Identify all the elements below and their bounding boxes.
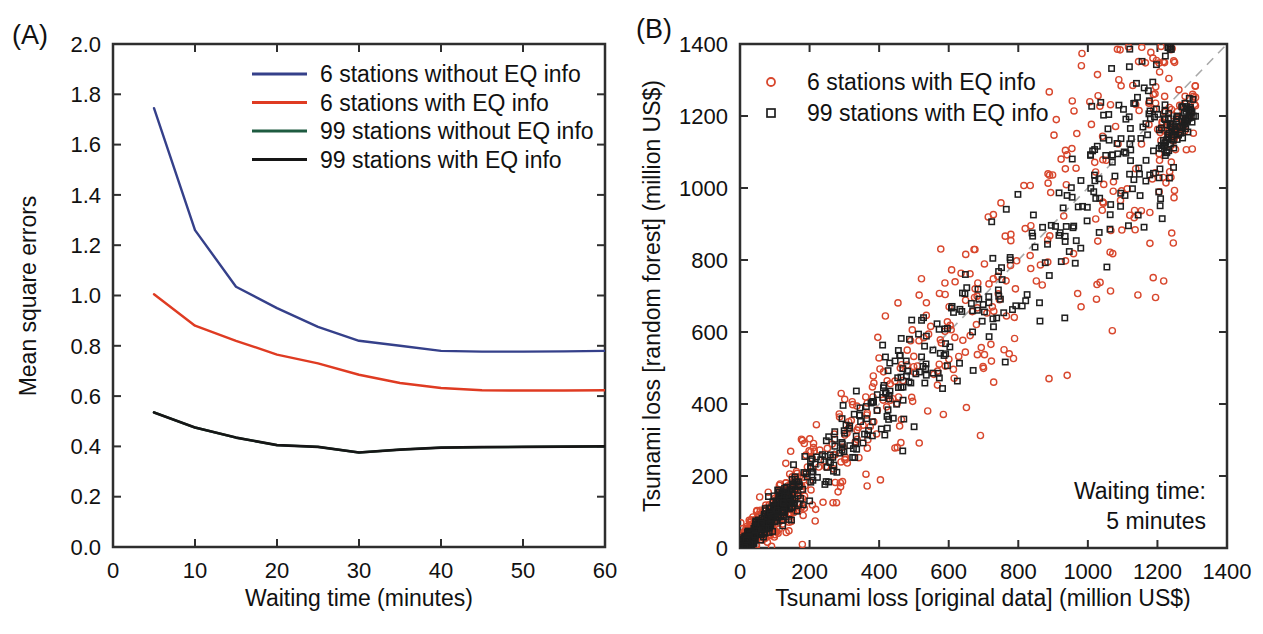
scatter-point xyxy=(1132,227,1138,233)
scatter-point xyxy=(1078,245,1083,250)
scatter-point xyxy=(969,301,974,306)
scatter-point xyxy=(1093,216,1099,222)
scatter-point xyxy=(934,321,939,326)
scatter-point xyxy=(986,334,991,339)
scatter-point xyxy=(1160,216,1165,221)
x-tick-label: 1000 xyxy=(1063,559,1112,584)
scatter-point xyxy=(1046,89,1052,95)
scatter-point xyxy=(1092,159,1098,165)
scatter-point xyxy=(977,432,983,438)
scatter-point xyxy=(1015,192,1020,197)
scatter-point xyxy=(1116,77,1122,83)
scatter-point xyxy=(1022,226,1028,232)
scatter-point xyxy=(991,379,997,385)
scatter-point xyxy=(1078,63,1084,69)
scatter-point xyxy=(882,432,887,437)
scatter-point xyxy=(973,321,979,327)
scatter-point xyxy=(949,267,955,273)
scatter-point xyxy=(799,541,805,547)
scatter-point xyxy=(904,347,910,353)
figure-tsunami-loss-forecast: (A) 01020304050600.00.20.40.60.81.01.21.… xyxy=(0,0,1263,634)
scatter-point xyxy=(869,384,875,390)
scatter-point xyxy=(1094,71,1100,77)
x-tick-label: 0 xyxy=(734,559,746,584)
scatter-point xyxy=(1074,238,1079,243)
scatter-point xyxy=(1069,98,1075,104)
scatter-point xyxy=(1062,315,1067,320)
scatter-point xyxy=(1060,205,1065,210)
scatter-point xyxy=(981,352,987,358)
scatter-point xyxy=(1127,64,1132,69)
y-tick-label: 400 xyxy=(691,392,728,417)
scatter-point xyxy=(1004,207,1009,212)
panel-b-y-axis-label: Tsunami loss [random forest] (million US… xyxy=(639,80,665,512)
scatter-point xyxy=(882,313,888,319)
scatter-point xyxy=(1053,116,1059,122)
y-tick-label: 200 xyxy=(691,464,728,489)
scatter-point xyxy=(974,352,980,358)
scatter-point xyxy=(1011,314,1017,320)
scatter-point xyxy=(956,353,962,359)
scatter-point xyxy=(871,380,877,386)
y-tick-label: 1200 xyxy=(679,104,728,129)
y-tick-label: 0.0 xyxy=(70,535,101,560)
figure-canvas: (A) 01020304050600.00.20.40.60.81.01.21.… xyxy=(0,0,1263,634)
scatter-point xyxy=(986,294,991,299)
scatter-point xyxy=(1137,193,1142,198)
scatter-point xyxy=(875,334,881,340)
scatter-point xyxy=(1169,230,1175,236)
legend-item-label: 6 stations with EQ info xyxy=(320,90,549,116)
legend-item-label: 6 stations without EQ info xyxy=(320,61,581,87)
scatter-point xyxy=(1105,126,1110,131)
scatter-point xyxy=(1107,102,1113,108)
scatter-point xyxy=(800,512,806,518)
scatter-point xyxy=(1101,181,1107,187)
scatter-point xyxy=(1112,123,1118,129)
scatter-point xyxy=(1162,93,1168,99)
y-tick-label: 1.4 xyxy=(70,183,101,208)
scatter-point xyxy=(998,200,1004,206)
scatter-point xyxy=(812,518,818,524)
scatter-point xyxy=(824,445,830,451)
scatter-point xyxy=(1143,158,1148,163)
scatter-point xyxy=(909,327,915,333)
scatter-point xyxy=(840,403,845,408)
scatter-point xyxy=(936,361,942,367)
scatter-point xyxy=(1002,233,1008,239)
scatter-point xyxy=(1128,126,1133,131)
scatter-point xyxy=(900,448,905,453)
scatter-point xyxy=(1161,278,1167,284)
scatter-point xyxy=(808,487,814,493)
scatter-point xyxy=(916,440,922,446)
scatter-point xyxy=(916,292,922,298)
scatter-point xyxy=(1078,304,1084,310)
scatter-point xyxy=(1096,230,1101,235)
scatter-point xyxy=(978,344,984,350)
x-tick-label: 60 xyxy=(593,558,617,583)
scatter-point xyxy=(810,440,816,446)
scatter-point xyxy=(1108,202,1113,207)
scatter-point xyxy=(1070,156,1075,161)
scatter-point xyxy=(1045,180,1051,186)
x-tick-label: 50 xyxy=(511,558,535,583)
scatter-point xyxy=(1058,156,1064,162)
scatter-point xyxy=(980,302,985,307)
scatter-point xyxy=(1137,171,1142,176)
scatter-point xyxy=(1145,132,1150,137)
scatter-point xyxy=(864,483,870,489)
scatter-point xyxy=(950,366,956,372)
scatter-point xyxy=(940,411,946,417)
scatter-point xyxy=(1107,212,1112,217)
y-tick-label: 0 xyxy=(716,536,728,561)
scatter-point xyxy=(1008,238,1014,244)
x-tick-label: 400 xyxy=(861,559,898,584)
scatter-point xyxy=(1119,227,1125,233)
scatter-point xyxy=(1027,182,1033,188)
scatter-point xyxy=(1143,178,1148,183)
scatter-point xyxy=(1064,224,1069,229)
scatter-point xyxy=(963,404,969,410)
scatter-point xyxy=(1095,238,1101,244)
scatter-point xyxy=(1141,224,1146,229)
line-series-3 xyxy=(154,412,605,452)
scatter-point xyxy=(1014,258,1020,264)
